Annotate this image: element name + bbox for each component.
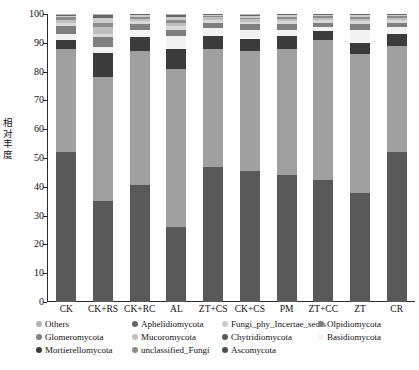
bar-segment[interactable] (277, 49, 297, 176)
legend-item[interactable]: Others (36, 318, 69, 330)
bar-segment[interactable] (387, 20, 407, 22)
bar-segment[interactable] (203, 15, 223, 16)
bar-segment[interactable] (56, 17, 76, 19)
bar-segment[interactable] (203, 36, 223, 49)
bar-segment[interactable] (166, 14, 186, 15)
bar-segment[interactable] (277, 24, 297, 30)
bar-segment[interactable] (277, 36, 297, 49)
bar-segment[interactable] (203, 20, 223, 23)
bar-segment[interactable] (387, 27, 407, 34)
bar-segment[interactable] (166, 15, 186, 17)
bar-segment[interactable] (350, 17, 370, 19)
bar-segment[interactable] (56, 40, 76, 49)
bar-segment[interactable] (166, 227, 186, 302)
bar-segment[interactable] (203, 14, 223, 15)
bar-segment[interactable] (203, 167, 223, 302)
bar-column[interactable] (387, 14, 407, 302)
bar-segment[interactable] (277, 17, 297, 19)
bar-segment[interactable] (130, 30, 150, 37)
bar-segment[interactable] (56, 49, 76, 153)
bar-segment[interactable] (240, 51, 260, 171)
bar-segment[interactable] (277, 175, 297, 302)
legend-item[interactable]: Fungi_phy_Incertae_sedis (222, 318, 326, 330)
bar-segment[interactable] (313, 27, 333, 31)
bar-segment[interactable] (56, 152, 76, 302)
bar-segment[interactable] (56, 23, 76, 26)
bar-segment[interactable] (130, 37, 150, 51)
bar-segment[interactable] (240, 39, 260, 52)
bar-segment[interactable] (240, 15, 260, 16)
bar-segment[interactable] (93, 14, 113, 15)
bar-column[interactable] (130, 14, 150, 302)
bar-segment[interactable] (203, 49, 223, 167)
bar-segment[interactable] (277, 21, 297, 24)
bar-segment[interactable] (56, 16, 76, 18)
legend-item[interactable]: Basidiomycota (318, 331, 381, 343)
bar-segment[interactable] (130, 21, 150, 24)
bar-segment[interactable] (93, 27, 113, 34)
legend-item[interactable]: Mucoromycota (132, 331, 196, 343)
bar-segment[interactable] (313, 14, 333, 15)
bar-column[interactable] (350, 14, 370, 302)
bar-segment[interactable] (313, 40, 333, 180)
bar-segment[interactable] (240, 18, 260, 20)
bar-segment[interactable] (166, 20, 186, 23)
bar-segment[interactable] (387, 152, 407, 302)
bar-column[interactable] (240, 14, 260, 302)
bar-segment[interactable] (313, 20, 333, 22)
bar-segment[interactable] (387, 18, 407, 20)
bar-segment[interactable] (277, 15, 297, 17)
bar-column[interactable] (166, 14, 186, 302)
bar-segment[interactable] (166, 30, 186, 36)
bar-segment[interactable] (240, 30, 260, 39)
bar-segment[interactable] (313, 31, 333, 40)
legend-item[interactable]: Olpidiomycota (318, 318, 381, 330)
bar-segment[interactable] (240, 14, 260, 15)
bar-segment[interactable] (313, 180, 333, 302)
bar-segment[interactable] (130, 19, 150, 21)
bar-segment[interactable] (93, 47, 113, 53)
bar-segment[interactable] (130, 51, 150, 185)
bar-segment[interactable] (240, 19, 260, 21)
bar-segment[interactable] (56, 20, 76, 23)
bar-segment[interactable] (93, 53, 113, 77)
bar-segment[interactable] (313, 23, 333, 27)
bar-segment[interactable] (277, 14, 297, 15)
bar-segment[interactable] (313, 15, 333, 16)
bar-segment[interactable] (93, 34, 113, 37)
bar-column[interactable] (56, 14, 76, 302)
bar-segment[interactable] (130, 185, 150, 302)
bar-segment[interactable] (93, 15, 113, 18)
bar-segment[interactable] (166, 23, 186, 26)
bar-segment[interactable] (350, 21, 370, 24)
bar-column[interactable] (313, 14, 333, 302)
bar-segment[interactable] (56, 15, 76, 16)
bar-segment[interactable] (93, 18, 113, 22)
bar-segment[interactable] (203, 17, 223, 19)
bar-segment[interactable] (93, 37, 113, 47)
bar-segment[interactable] (387, 34, 407, 46)
bar-segment[interactable] (240, 171, 260, 302)
bar-segment[interactable] (350, 14, 370, 15)
bar-segment[interactable] (350, 19, 370, 21)
bar-segment[interactable] (166, 69, 186, 227)
legend-item[interactable]: Mortierellomycota (36, 344, 112, 356)
bar-segment[interactable] (56, 26, 76, 35)
bar-segment[interactable] (313, 16, 333, 18)
bar-column[interactable] (277, 14, 297, 302)
bar-segment[interactable] (350, 43, 370, 55)
bar-column[interactable] (93, 14, 113, 302)
legend-item[interactable]: Ascomycota (222, 344, 276, 356)
bar-segment[interactable] (277, 30, 297, 36)
bar-segment[interactable] (387, 23, 407, 27)
bar-segment[interactable] (166, 17, 186, 19)
bar-segment[interactable] (277, 19, 297, 21)
bar-column[interactable] (203, 14, 223, 302)
bar-segment[interactable] (350, 193, 370, 302)
bar-segment[interactable] (166, 36, 186, 49)
bar-segment[interactable] (350, 15, 370, 17)
bar-segment[interactable] (387, 14, 407, 15)
bar-segment[interactable] (240, 16, 260, 17)
bar-segment[interactable] (240, 24, 260, 30)
bar-segment[interactable] (350, 54, 370, 192)
